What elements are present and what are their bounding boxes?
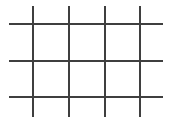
drawing-canvas (0, 0, 172, 123)
grid-drawing (0, 0, 172, 123)
